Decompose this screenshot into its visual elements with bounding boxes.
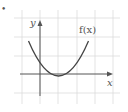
y-axis-arrow-icon (38, 20, 43, 26)
x-axis-label: x (107, 77, 113, 88)
function-curve (29, 41, 89, 76)
y-axis-label: y (29, 17, 36, 28)
function-label: f(x) (79, 24, 96, 35)
x-axis-arrow-icon (107, 72, 113, 77)
axes (20, 24, 110, 96)
bullet-marker: • (1, 4, 6, 14)
function-graph: • y f(x) x (0, 0, 128, 112)
